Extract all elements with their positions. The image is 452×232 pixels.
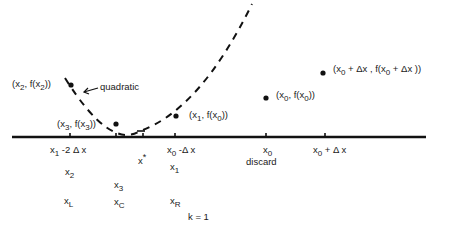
text: ))	[309, 89, 315, 100]
subscript: 0	[217, 114, 221, 123]
text: ))	[45, 78, 51, 89]
text: (x	[276, 89, 284, 100]
tick-label-x0-plus-dx: x0 + Δ x	[313, 145, 346, 155]
tick-label-x1-minus-2dx: x1 -2 Δ x	[50, 145, 86, 155]
label-x3: x3	[114, 180, 123, 190]
text: (x	[189, 109, 197, 120]
label-point-x2: (x2, f(x2))	[12, 79, 51, 89]
text: , f(x	[69, 118, 85, 129]
subscript: 0	[341, 68, 345, 77]
subscript: 1	[197, 114, 201, 123]
text: , f(x	[24, 78, 40, 89]
subscript: C	[119, 201, 125, 210]
text: -Δ x	[176, 144, 195, 155]
subscript: 2	[40, 83, 44, 92]
subscript: 3	[119, 184, 123, 193]
label-xR: xR	[170, 196, 181, 206]
subscript: 0	[386, 68, 390, 77]
subscript: 3	[85, 123, 89, 132]
label-x1: x1	[170, 162, 179, 172]
subscript: L	[69, 200, 73, 209]
subscript: 0	[284, 94, 288, 103]
label-point-x3: (x3, f(x3))	[57, 119, 96, 129]
subscript: 0	[172, 149, 176, 158]
label-point-x0-plus-dx: (x0 + Δx , f(x0 + Δx ))	[333, 64, 421, 74]
subscript: 1	[55, 149, 59, 158]
text: + Δx , f(x	[345, 63, 385, 74]
text: + Δ x	[322, 144, 346, 155]
text: , f(x	[201, 109, 217, 120]
superscript: *	[143, 152, 147, 162]
subscript: 0	[304, 94, 308, 103]
text: ))	[222, 109, 228, 120]
subscript: 1	[175, 166, 179, 175]
subscript: 3	[65, 123, 69, 132]
subscript: 2	[20, 83, 24, 92]
label-discard: discard	[246, 157, 277, 167]
text: + Δx ))	[390, 63, 421, 74]
label-iteration: k = 1	[188, 212, 209, 222]
text: (x	[57, 118, 65, 129]
label-quadratic: quadratic	[100, 82, 139, 92]
text: , f(x	[288, 89, 304, 100]
label-xL: xL	[64, 196, 73, 206]
label-point-x0: (x0, f(x0))	[276, 90, 315, 100]
label-point-x1: (x1, f(x0))	[189, 110, 228, 120]
subscript: 2	[70, 171, 74, 180]
tick-label-x0-minus-dx: x0 -Δ x	[167, 145, 195, 155]
text: -2 Δ x	[59, 144, 86, 155]
arrow-icon	[84, 88, 98, 94]
label-xC: xC	[114, 197, 125, 207]
text: (x	[12, 78, 20, 89]
subscript: R	[175, 200, 181, 209]
subscript: 0	[318, 149, 322, 158]
label-x2: x2	[65, 167, 74, 177]
tick-label-x-star: x*	[138, 153, 146, 166]
text: ))	[90, 118, 96, 129]
text: (x	[333, 63, 341, 74]
tick-label-x0: x0	[263, 145, 272, 155]
